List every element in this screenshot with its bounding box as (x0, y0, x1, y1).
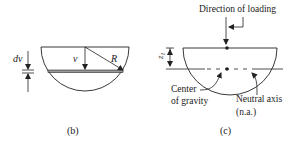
differential-strip (48, 70, 123, 72)
load-point (225, 46, 229, 50)
caption-b: (b) (67, 125, 79, 137)
center-of-gravity-label-1: Center (171, 84, 197, 94)
center-of-gravity-label-2: of gravity (171, 96, 208, 106)
r-arrow (85, 47, 123, 70)
neutral-axis-label-1: Neutral axis (236, 94, 282, 104)
direction-label: Direction of loading (199, 4, 276, 14)
diagram-canvas: v R dv (b) Direction of loading z1 Cente… (0, 0, 296, 147)
semicircle-c (183, 48, 277, 95)
neutral-axis-leader (252, 73, 257, 95)
dv-label: dv (13, 53, 23, 64)
figure-c: Direction of loading z1 Center of gravit… (155, 4, 283, 137)
center-of-gravity-point (225, 67, 229, 71)
v-label: v (73, 53, 78, 64)
neutral-axis-label-2: (n.a.) (236, 107, 256, 118)
direction-leader (229, 17, 243, 27)
caption-c: (c) (220, 125, 231, 137)
r-label: R (110, 53, 117, 64)
figure-b: v R dv (b) (13, 47, 129, 137)
center-of-gravity-leader (200, 73, 221, 90)
z1-label: z1 (155, 52, 166, 60)
